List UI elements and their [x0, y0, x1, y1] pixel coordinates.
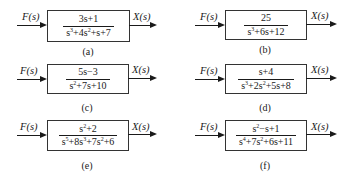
transfer-function-fraction: s2+2 s5+8s3+7s2+6 [59, 124, 118, 148]
numerator: s2−s+1 [249, 124, 282, 136]
transfer-function-block: s2−s+1 s4+7s2+6s+11 [225, 120, 307, 151]
arrow-right-icon [150, 131, 157, 137]
denominator: s3+2s2+5s+8 [238, 79, 294, 92]
input-arrow-line [195, 135, 219, 136]
transfer-function-fraction: 5s−3 s2+7s+10 [66, 67, 109, 91]
arrow-right-icon [330, 21, 337, 27]
output-arrow-line [128, 134, 151, 135]
diagram-caption: (c) [72, 102, 102, 113]
arrow-right-icon [150, 22, 157, 28]
output-arrow-line [306, 134, 331, 135]
denominator: s4+7s2+6s+11 [236, 135, 296, 148]
block-diagram-c: F(s) 5s−3 s2+7s+10 X(s) (c) [0, 58, 175, 116]
arrow-right-icon [150, 75, 157, 81]
block-diagram-f: F(s) s2−s+1 s4+7s2+6s+11 X(s) (f) [175, 118, 350, 176]
arrow-right-icon [218, 132, 225, 138]
output-signal-label: X(s) [132, 65, 150, 76]
diagram-caption: (e) [72, 160, 102, 171]
output-signal-label: X(s) [311, 122, 329, 133]
block-diagram-e: F(s) s2+2 s5+8s3+7s2+6 X(s) (e) [0, 118, 175, 176]
diagram-caption: (d) [250, 102, 280, 113]
output-arrow-line [306, 24, 331, 25]
numerator: s2+2 [76, 124, 100, 136]
output-signal-label: X(s) [133, 12, 151, 23]
transfer-function-fraction: s+4 s3+2s2+5s+8 [238, 67, 294, 91]
input-arrow-line [17, 79, 41, 80]
arrow-right-icon [218, 76, 225, 82]
transfer-function-fraction: 25 s3+6s+12 [244, 13, 287, 37]
input-signal-label: F(s) [200, 122, 218, 133]
block-diagram-d: F(s) s+4 s3+2s2+5s+8 X(s) (d) [175, 58, 350, 116]
numerator: 5s−3 [75, 67, 101, 79]
arrow-right-icon [330, 131, 337, 137]
transfer-function-fraction: s2−s+1 s4+7s2+6s+11 [236, 124, 296, 148]
input-signal-label: F(s) [22, 12, 40, 23]
transfer-function-fraction: 3s+1 s3+4s2+s+7 [63, 14, 114, 38]
diagram-caption: (f) [250, 160, 280, 171]
transfer-function-block: s+4 s3+2s2+5s+8 [225, 64, 307, 94]
transfer-function-block: 5s−3 s2+7s+10 [47, 64, 129, 94]
numerator: 25 [258, 13, 274, 25]
input-signal-label: F(s) [20, 66, 38, 77]
numerator: s+4 [256, 67, 277, 79]
arrow-right-icon [218, 22, 225, 28]
output-signal-label: X(s) [132, 122, 150, 133]
diagram-caption: (a) [73, 46, 103, 57]
arrow-right-icon [40, 76, 47, 82]
arrow-right-icon [330, 75, 337, 81]
block-diagram-a: F(s) 3s+1 s3+4s2+s+7 X(s) (a) [0, 0, 175, 58]
input-arrow-line [17, 25, 41, 26]
input-arrow-line [195, 25, 219, 26]
denominator: s2+7s+10 [66, 79, 109, 92]
arrow-right-icon [40, 22, 47, 28]
denominator: s3+6s+12 [244, 25, 287, 38]
input-arrow-line [195, 79, 219, 80]
input-arrow-line [17, 135, 41, 136]
output-arrow-line [306, 78, 331, 79]
transfer-function-block: s2+2 s5+8s3+7s2+6 [47, 120, 129, 151]
transfer-function-block: 25 s3+6s+12 [225, 10, 307, 40]
numerator: 3s+1 [76, 14, 102, 26]
arrow-right-icon [40, 132, 47, 138]
denominator: s5+8s3+7s2+6 [59, 135, 118, 148]
denominator: s3+4s2+s+7 [63, 26, 114, 39]
output-arrow-line [129, 25, 151, 26]
output-arrow-line [128, 78, 151, 79]
transfer-function-block: 3s+1 s3+4s2+s+7 [47, 10, 130, 42]
output-signal-label: X(s) [311, 11, 329, 22]
input-signal-label: F(s) [20, 122, 38, 133]
diagram-caption: (b) [250, 44, 280, 55]
input-signal-label: F(s) [200, 12, 218, 23]
block-diagram-b: F(s) 25 s3+6s+12 X(s) (b) [175, 0, 350, 58]
output-signal-label: X(s) [311, 65, 329, 76]
input-signal-label: F(s) [200, 66, 218, 77]
